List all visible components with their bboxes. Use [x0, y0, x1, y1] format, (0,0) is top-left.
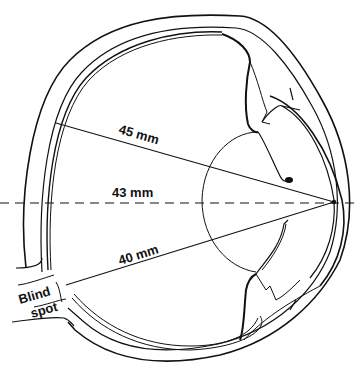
optic-disc-bracket — [56, 282, 62, 302]
ciliary-upper — [222, 34, 258, 132]
eye-diagram: 45 mm 43 mm 40 mm Blind spot — [0, 0, 359, 372]
optic-nerve-bottom — [12, 317, 74, 326]
optic-nerve-mid-top — [18, 275, 54, 285]
retina-layer-3 — [72, 298, 262, 350]
cornea-inner — [282, 106, 334, 278]
sclera-outer — [24, 15, 350, 361]
label-43mm: 43 mm — [112, 185, 153, 200]
cornea-arrow-top — [290, 88, 293, 100]
focal-point — [332, 200, 336, 204]
pupil-dot — [285, 177, 293, 183]
label-45mm: 45 mm — [117, 121, 161, 147]
line-45mm — [56, 123, 334, 202]
lens — [202, 132, 258, 272]
retina-layer-4 — [74, 294, 258, 346]
retina-layer-1 — [47, 32, 222, 270]
line-40mm — [66, 202, 334, 285]
iris-upper — [262, 106, 300, 122]
iris-lower — [256, 220, 288, 274]
retina-layer-2 — [50, 35, 222, 270]
iris-upper-back — [258, 132, 289, 181]
zonule-lower — [256, 274, 300, 300]
label-40mm: 40 mm — [116, 241, 160, 267]
optic-nerve-top — [16, 258, 42, 268]
